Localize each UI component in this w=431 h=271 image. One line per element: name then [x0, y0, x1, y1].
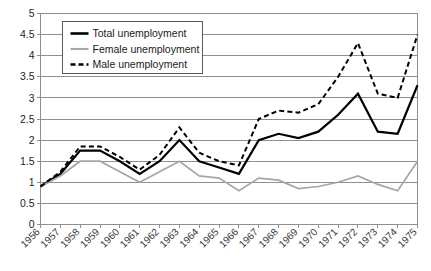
y-tick-label: 5: [29, 7, 35, 19]
x-tick-label: 1959: [78, 226, 102, 250]
x-axis-labels: 1956195719581959196019611962196319641965…: [18, 225, 419, 250]
x-tick-label: 1958: [58, 226, 82, 250]
y-tick-label: 0.5: [20, 197, 35, 209]
x-tick-label: 1970: [296, 226, 320, 250]
legend-label: Total unemployment: [93, 27, 187, 39]
x-tick-label: 1960: [98, 226, 122, 250]
x-tick-label: 1957: [38, 226, 62, 250]
x-tick-label: 1975: [395, 226, 419, 250]
x-tick-label: 1967: [237, 226, 261, 250]
y-axis-ticks: [37, 14, 41, 225]
y-tick-label: 2.5: [20, 113, 35, 125]
legend-label: Male unemployment: [93, 58, 188, 70]
y-tick-label: 3: [29, 92, 35, 104]
y-axis-labels: 00.511.522.533.544.55: [20, 7, 35, 230]
legend: Total unemploymentFemale unemploymentMal…: [63, 22, 203, 74]
chart-canvas: 00.511.522.533.544.55 195619571958195919…: [0, 0, 431, 271]
x-tick-label: 1956: [18, 226, 42, 250]
series-line-female-unemployment: [41, 161, 418, 191]
x-tick-label: 1969: [276, 226, 300, 250]
x-tick-label: 1972: [336, 226, 360, 250]
y-tick-label: 1: [29, 176, 35, 188]
x-tick-label: 1974: [376, 226, 400, 250]
y-tick-label: 3.5: [20, 70, 35, 82]
x-tick-label: 1963: [157, 226, 181, 250]
y-tick-label: 4: [29, 49, 35, 61]
x-tick-label: 1966: [217, 226, 241, 250]
x-tick-label: 1965: [197, 226, 221, 250]
x-tick-label: 1961: [118, 226, 142, 250]
x-tick-label: 1973: [356, 226, 380, 250]
y-tick-label: 2: [29, 134, 35, 146]
series-line-total-unemployment: [41, 85, 418, 186]
x-tick-label: 1971: [316, 226, 340, 250]
x-tick-label: 1968: [257, 226, 281, 250]
x-tick-label: 1964: [177, 226, 201, 250]
y-tick-label: 1.5: [20, 155, 35, 167]
unemployment-line-chart: 00.511.522.533.544.55 195619571958195919…: [0, 0, 431, 271]
y-tick-label: 4.5: [20, 28, 35, 40]
x-tick-label: 1962: [137, 226, 161, 250]
legend-label: Female unemployment: [93, 43, 200, 55]
